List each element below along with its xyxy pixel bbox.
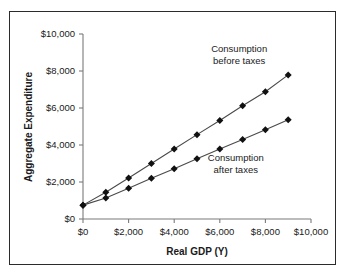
data-point-marker [171, 165, 178, 172]
data-point-marker [194, 155, 201, 162]
data-point-marker [285, 116, 292, 123]
data-point-marker [216, 117, 223, 124]
data-point-marker [148, 175, 155, 182]
data-point-marker [148, 160, 155, 167]
annotation-after-taxes-line2: after taxes [214, 164, 259, 175]
data-point-marker [194, 131, 201, 138]
y-axis-title: Aggregate Expenditure [23, 72, 34, 182]
aggregate-expenditure-chart: $0$2,000$4,000$6,000$8,000$10,000 $0$2,0… [10, 12, 334, 263]
data-point-marker [125, 185, 132, 192]
data-point-marker [262, 126, 269, 133]
data-point-marker [239, 136, 246, 143]
data-point-marker [80, 202, 87, 209]
x-tick-label: $8,000 [251, 226, 280, 237]
x-tick-label: $4,000 [160, 226, 189, 237]
x-tick-label: $6,000 [205, 226, 234, 237]
y-tick-label: $0 [64, 213, 75, 224]
annotation-after-taxes: Consumption after taxes [208, 152, 264, 175]
y-tick-label: $10,000 [41, 28, 75, 39]
y-tick-label: $4,000 [46, 139, 75, 150]
y-tick-label: $8,000 [46, 65, 75, 76]
annotation-before-taxes-line1: Consumption [211, 43, 267, 54]
y-axis-ticks [79, 34, 83, 219]
x-tick-label: $10,000 [294, 226, 328, 237]
x-axis-title: Real GDP (Y) [166, 246, 228, 257]
y-axis-tick-labels: $0$2,000$4,000$6,000$8,000$10,000 [41, 28, 75, 224]
annotation-after-taxes-line1: Consumption [208, 152, 264, 163]
chart-figure-frame: $0$2,000$4,000$6,000$8,000$10,000 $0$2,0… [9, 11, 336, 265]
series-before-taxes [80, 71, 292, 208]
x-tick-label: $2,000 [114, 226, 143, 237]
x-tick-label: $0 [78, 226, 89, 237]
y-tick-label: $2,000 [46, 176, 75, 187]
data-point-marker [171, 146, 178, 153]
x-axis-tick-labels: $0$2,000$4,000$6,000$8,000$10,000 [78, 226, 328, 237]
annotation-before-taxes-line2: before taxes [213, 55, 266, 66]
data-point-marker [102, 195, 109, 202]
data-point-marker [239, 102, 246, 109]
x-axis-ticks [83, 219, 311, 223]
annotation-before-taxes: Consumption before taxes [211, 43, 267, 66]
data-point-marker [125, 174, 132, 181]
chart-axes [83, 34, 311, 219]
series-line [83, 75, 288, 205]
chart-series-layer [80, 71, 292, 208]
y-tick-label: $6,000 [46, 102, 75, 113]
